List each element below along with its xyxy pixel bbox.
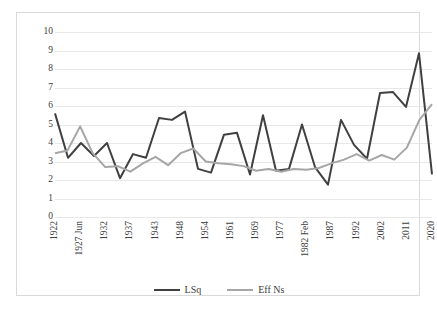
y-axis-tick-label: 4 [33,138,53,148]
x-axis-tick-label: 2020 [427,221,437,240]
x-axis-tick-label: 1992 [352,221,362,240]
x-axis-tick-label: 1961 [226,221,236,240]
x-axis: 19221927 Jun1932193719431948195419611969… [55,221,432,283]
plot-area [55,32,432,217]
x-axis-tick-label: 1954 [201,221,211,240]
y-axis-tick-label: 2 [33,175,53,185]
x-axis-tick-label: 1969 [251,221,261,240]
x-axis-tick-label: 1932 [100,221,110,240]
x-axis-tick-label: 1937 [125,221,135,240]
gridline [55,217,432,218]
x-axis-tick-label: 1977 [276,221,286,240]
chart-legend: LSqEff Ns [17,285,421,295]
x-axis-tick-label: 1927 Jun [75,221,85,256]
y-axis-tick-label: 9 [33,46,53,56]
y-axis-tick-label: 3 [33,157,53,167]
legend-line-swatch [154,289,180,292]
legend-label: Eff Ns [258,285,284,295]
y-axis-tick-label: 1 [33,194,53,204]
y-axis-tick-label: 6 [33,101,53,111]
series-line-lsq [55,53,432,184]
y-axis-tick-label: 8 [33,64,53,74]
legend-line-swatch [227,289,253,292]
x-axis-tick-label: 1987 [326,221,336,240]
series-lines [55,32,432,217]
y-axis-tick-label: 5 [33,120,53,130]
legend-item[interactable]: LSq [154,285,202,295]
y-axis: 012345678910 [33,32,53,217]
x-axis-tick-label: 2002 [377,221,387,240]
chart-frame: 012345678910 19221927 Jun193219371943194… [16,12,420,296]
legend-item[interactable]: Eff Ns [227,285,284,295]
x-axis-tick-label: 1943 [151,221,161,240]
x-axis-tick-label: 1982 Feb [301,221,311,257]
legend-label: LSq [185,285,202,295]
x-axis-tick-label: 2011 [402,221,412,240]
x-axis-tick-label: 1922 [50,221,60,240]
y-axis-tick-label: 7 [33,83,53,93]
x-axis-tick-label: 1948 [176,221,186,240]
y-axis-tick-label: 10 [33,27,53,37]
